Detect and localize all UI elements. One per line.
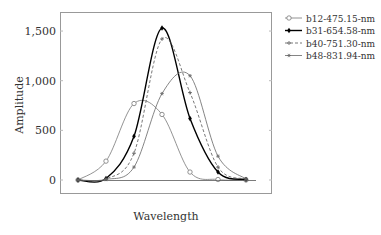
legend-label: b31-654.58-nm <box>306 26 376 36</box>
y-tick-label: 0 <box>49 174 56 187</box>
series-lines <box>76 25 256 183</box>
y-tick-label: 500 <box>35 124 56 137</box>
series-b40-751.30-nm <box>76 37 256 182</box>
legend-label: b40-751.30-nm <box>306 39 376 49</box>
legend: b12-475.15-nmb31-654.58-nmb40-751.30-nmb… <box>285 14 376 62</box>
legend-item: b48-831.94-nm <box>285 51 376 61</box>
y-tick-label: 1,500 <box>25 25 57 38</box>
legend-item: b31-654.58-nm <box>285 26 376 36</box>
legend-item: b12-475.15-nm <box>285 14 376 24</box>
y-axis-ticks: 05001,0001,500 <box>25 25 273 187</box>
legend-item: b40-751.30-nm <box>285 39 376 49</box>
legend-label: b12-475.15-nm <box>306 14 376 24</box>
y-axis-label: Amplitude <box>13 76 26 135</box>
y-tick-label: 1,000 <box>25 75 57 88</box>
plot-frame <box>61 13 272 194</box>
series-b12-475.15-nm <box>76 100 256 182</box>
legend-label: b48-831.94-nm <box>306 51 376 61</box>
series-b31-654.58-nm <box>76 25 256 183</box>
x-axis-label: Wavelength <box>133 210 198 223</box>
line-chart: 05001,0001,500 Amplitude Wavelength b12-… <box>0 0 381 235</box>
